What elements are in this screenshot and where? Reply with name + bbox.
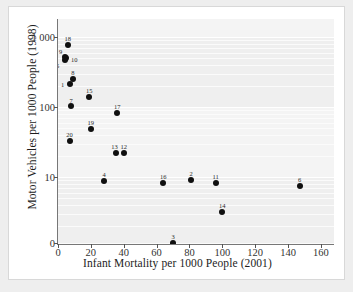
x-tick-label-7: 140 [280,247,296,258]
gridline-minor [58,123,334,124]
gridline-minor [58,86,334,87]
data-point-label: 19 [88,119,95,126]
data-point-label: 8 [71,69,74,76]
gridline-minor [58,226,334,227]
data-point-label: 13 [111,143,118,150]
data-point[interactable] [67,138,73,144]
gridline-major [58,37,334,38]
x-tick-mark-5 [222,244,223,248]
gridline-minor [58,214,334,215]
plot-area: 1891058171517192013124162116143 [58,19,334,244]
gridline-major [58,107,334,108]
data-point-label: 10 [71,56,78,63]
x-tick-label-4: 80 [184,247,195,258]
data-point[interactable] [121,150,127,156]
gridline-minor [58,65,334,66]
x-tick-label-1: 20 [86,247,97,258]
data-point-label: 16 [160,173,167,180]
x-tick-mark-6 [255,244,256,248]
y-tick-label-1: 100 [39,102,55,113]
data-point[interactable] [101,178,107,184]
x-tick-mark-4 [189,244,190,248]
gridline-minor [58,188,334,189]
x-tick-label-2: 40 [118,247,129,258]
data-point-label: 20 [66,131,73,138]
data-point[interactable] [297,183,303,189]
data-point[interactable] [88,126,94,132]
data-point-label: 12 [120,143,127,150]
data-point-label: 3 [171,233,174,240]
gridline-minor [58,40,334,41]
gridline-minor [58,118,334,119]
x-tick-mark-1 [91,244,92,248]
x-tick-label-0: 0 [55,247,60,258]
chart-card: Motor Vehicles per 1000 People (1998) In… [8,6,345,280]
y-tick-mark-1 [54,107,58,108]
x-tick-label-3: 60 [151,247,162,258]
gridline-minor [58,74,334,75]
gridline-minor [58,58,334,59]
x-tick-mark-3 [157,244,158,248]
y-tick-label-0: 1 000 [31,32,55,43]
gridline-minor [58,135,334,136]
data-point-label: 9 [59,48,62,55]
y-tick-mark-2 [54,177,58,178]
data-point-label: 15 [86,87,93,94]
data-point-label: 11 [213,173,219,180]
y-axis-line [57,19,58,245]
x-tick-mark-8 [321,244,322,248]
data-point[interactable] [113,150,119,156]
gridline-minor [58,48,334,49]
gridline-minor [58,184,334,185]
gridline-major [58,177,334,178]
data-point[interactable] [62,57,68,63]
gridline-minor [58,144,334,145]
gridline-minor [58,193,334,194]
x-tick-label-5: 100 [214,247,230,258]
data-point-label: 5 [58,62,59,69]
data-point[interactable] [67,81,73,87]
gridline-minor [58,53,334,54]
gridline-minor [58,205,334,206]
x-tick-mark-0 [58,244,59,248]
data-point[interactable] [219,209,225,215]
gridline-minor [58,198,334,199]
data-point-label: 7 [70,97,73,104]
gridline-minor [58,128,334,129]
gridline-minor [58,180,334,181]
data-point-label: 1 [61,81,64,88]
data-point[interactable] [65,42,71,48]
y-axis-tick-labels: 1 000100100 [17,19,55,244]
data-point-label: 14 [219,202,226,209]
data-point-label: 4 [102,171,105,178]
y-tick-mark-0 [54,37,58,38]
data-point[interactable] [86,94,92,100]
data-point-label: 6 [298,176,301,183]
gridline-minor [58,44,334,45]
x-tick-label-8: 160 [313,247,329,258]
data-point-label: 17 [114,103,121,110]
x-axis-tick-labels: 020406080100120140160 [58,247,334,261]
data-point[interactable] [213,180,219,186]
x-tick-mark-2 [124,244,125,248]
x-tick-label-6: 120 [247,247,263,258]
data-point-label: 18 [65,35,72,42]
gridline-minor [58,114,334,115]
gridline-minor [58,110,334,111]
x-tick-mark-7 [288,244,289,248]
gridline-minor [58,156,334,157]
x-axis-line [57,244,334,245]
data-point[interactable] [114,110,120,116]
data-point-label: 2 [189,170,192,177]
